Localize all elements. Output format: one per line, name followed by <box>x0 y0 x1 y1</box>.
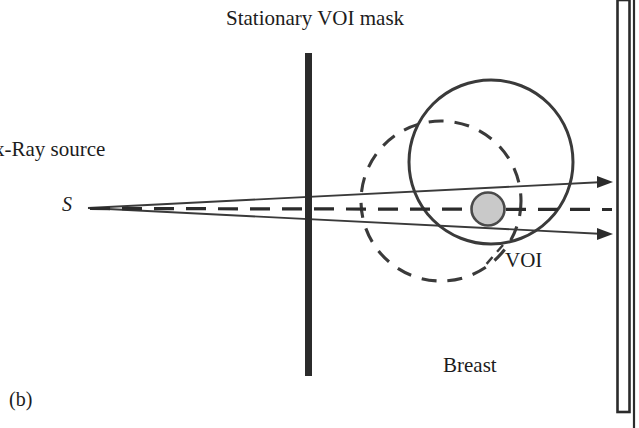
voi-label: VOI <box>505 250 542 271</box>
x-ray-source-label: x-Ray source <box>0 139 105 160</box>
voi-sphere <box>472 193 505 226</box>
stationary-voi-mask-label: Stationary VOI mask <box>226 8 404 29</box>
source-point-label: S <box>62 194 72 214</box>
detector-panel <box>618 0 635 428</box>
diagram-canvas <box>0 0 639 428</box>
beam-upper-edge <box>88 176 613 208</box>
central-axis <box>90 209 612 210</box>
beam-lower-edge <box>88 208 613 240</box>
breast-label: Breast <box>443 355 497 376</box>
stationary-voi-mask-bar <box>305 53 312 376</box>
figure-panel-b: Stationary VOI mask x-Ray source S VOI B… <box>0 0 639 428</box>
panel-caption: (b) <box>9 389 32 409</box>
